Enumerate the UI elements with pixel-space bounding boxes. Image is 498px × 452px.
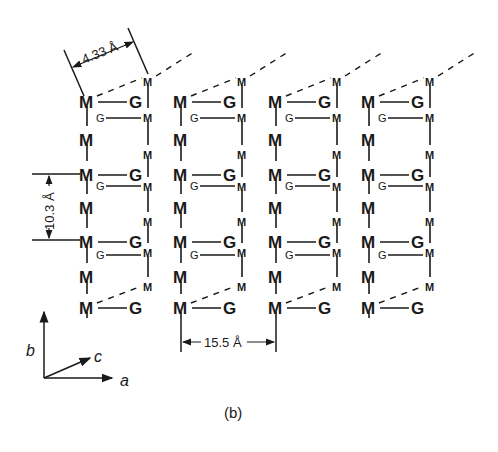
front-m-atom: M	[361, 268, 375, 287]
front-m-atom: M	[268, 199, 282, 218]
front-m-atom: M	[79, 166, 93, 185]
guest-g-atom: G	[411, 93, 424, 112]
guest-g-atom: G	[411, 299, 424, 318]
back-m-atom: M	[332, 112, 341, 124]
axis-label-b: b	[26, 342, 35, 359]
front-m-atom: M	[268, 93, 282, 112]
front-m-atom: M	[268, 299, 282, 318]
axes-indicator: b c a	[26, 312, 129, 389]
front-m-atom: M	[268, 268, 282, 287]
guest-g-atom: G	[223, 299, 236, 318]
back-g-atom: G	[285, 249, 294, 261]
back-m-atom: M	[237, 149, 246, 161]
figure-caption: (b)	[224, 404, 242, 421]
back-m-atom: M	[237, 181, 246, 193]
guest-g-atom: G	[318, 299, 331, 318]
back-g-atom: G	[378, 249, 387, 261]
front-m-atom: M	[79, 131, 93, 150]
back-g-atom: G	[378, 112, 387, 124]
lattice-svg: MMMMMMMGGGGMMMMMMMGGGMMMMMMMGGGGMMMMMMMG…	[0, 0, 498, 452]
back-g-atom: G	[190, 180, 199, 192]
lattice-columns: MMMMMMMGGGGMMMMMMMGGGMMMMMMMGGGGMMMMMMMG…	[79, 52, 476, 318]
front-m-atom: M	[79, 233, 93, 252]
front-m-atom: M	[361, 199, 375, 218]
back-m-atom: M	[237, 216, 246, 228]
guest-g-atom: G	[129, 299, 142, 318]
back-m-atom: M	[237, 76, 246, 88]
back-g-atom: G	[96, 112, 105, 124]
dimension-label-a: 15.5 Å	[204, 335, 242, 350]
front-m-atom: M	[173, 299, 187, 318]
front-m-atom: M	[79, 93, 93, 112]
back-g-atom: G	[96, 249, 105, 261]
back-m-atom: M	[143, 76, 152, 88]
back-m-atom: M	[237, 281, 246, 293]
back-g-atom: G	[285, 112, 294, 124]
back-m-atom: M	[332, 281, 341, 293]
guest-g-atom: G	[129, 93, 142, 112]
front-m-atom: M	[268, 166, 282, 185]
back-g-atom: G	[378, 180, 387, 192]
back-m-atom: M	[425, 181, 434, 193]
guest-g-atom: G	[411, 233, 424, 252]
front-m-atom: M	[173, 199, 187, 218]
front-m-atom: M	[79, 199, 93, 218]
back-m-atom: M	[143, 281, 152, 293]
back-m-atom: M	[143, 112, 152, 124]
dimension-label-b: 10.3 Å	[42, 192, 57, 230]
front-m-atom: M	[361, 233, 375, 252]
guest-g-atom: G	[318, 166, 331, 185]
guest-g-atom: G	[129, 166, 142, 185]
dimension-c-spacing: 4.33 Å	[64, 28, 148, 96]
front-m-atom: M	[173, 93, 187, 112]
front-m-atom: M	[361, 131, 375, 150]
guest-g-atom: G	[223, 233, 236, 252]
back-m-atom: M	[237, 247, 246, 259]
front-m-atom: M	[173, 131, 187, 150]
axis-label-a: a	[120, 372, 129, 389]
back-m-atom: M	[425, 281, 434, 293]
dimension-a-spacing: 15.5 Å	[181, 318, 276, 352]
back-m-atom: M	[425, 76, 434, 88]
back-g-atom: G	[190, 249, 199, 261]
back-g-atom: G	[96, 180, 105, 192]
guest-g-atom: G	[223, 166, 236, 185]
front-m-atom: M	[173, 233, 187, 252]
guest-g-atom: G	[318, 233, 331, 252]
back-m-atom: M	[332, 149, 341, 161]
back-m-atom: M	[425, 216, 434, 228]
front-m-atom: M	[361, 93, 375, 112]
back-m-atom: M	[425, 247, 434, 259]
back-m-atom: M	[332, 76, 341, 88]
back-m-atom: M	[425, 149, 434, 161]
back-m-atom: M	[143, 216, 152, 228]
dimension-b-spacing: 10.3 Å	[32, 174, 80, 240]
dimension-label-c: 4.33 Å	[80, 39, 121, 67]
back-m-atom: M	[332, 247, 341, 259]
front-m-atom: M	[173, 166, 187, 185]
back-m-atom: M	[237, 112, 246, 124]
back-m-atom: M	[332, 181, 341, 193]
front-m-atom: M	[79, 299, 93, 318]
guest-g-atom: G	[223, 93, 236, 112]
back-m-atom: M	[143, 149, 152, 161]
front-m-atom: M	[173, 268, 187, 287]
back-m-atom: M	[143, 247, 152, 259]
front-m-atom: M	[361, 299, 375, 318]
guest-g-atom: G	[129, 233, 142, 252]
front-m-atom: M	[268, 131, 282, 150]
axis-label-c: c	[94, 348, 102, 365]
front-m-atom: M	[79, 268, 93, 287]
front-m-atom: M	[268, 233, 282, 252]
back-g-atom: G	[285, 180, 294, 192]
front-m-atom: M	[361, 166, 375, 185]
back-m-atom: M	[425, 112, 434, 124]
guest-g-atom: G	[318, 93, 331, 112]
back-m-atom: M	[332, 216, 341, 228]
back-g-atom: G	[190, 112, 199, 124]
guest-g-atom: G	[411, 166, 424, 185]
back-m-atom: M	[143, 181, 152, 193]
